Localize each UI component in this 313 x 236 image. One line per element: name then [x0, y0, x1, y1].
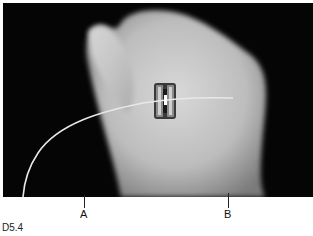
label-a: A — [80, 208, 87, 220]
figure-caption: D5.4 — [2, 222, 23, 233]
label-b-leader-line — [228, 193, 229, 208]
tooth-photograph — [3, 3, 313, 197]
tooth-with-bracket-and-wire-image — [3, 3, 313, 197]
label-a-leader-line — [84, 195, 85, 208]
ligature-highlight — [164, 95, 167, 105]
label-b: B — [224, 208, 231, 220]
